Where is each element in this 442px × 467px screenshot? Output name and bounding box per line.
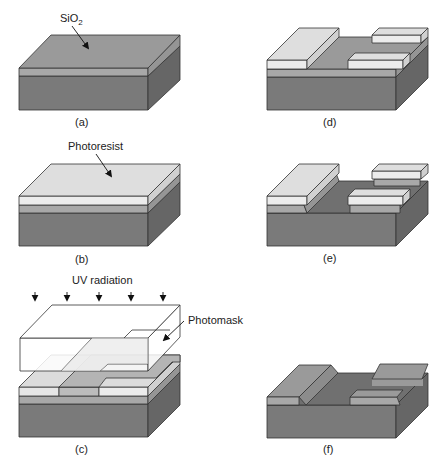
panel-e [267, 164, 428, 246]
photolithography-diagram: SiO2 (a) Photoresist (b) UV radiation [0, 0, 442, 467]
svg-text:SiO2: SiO2 [60, 12, 83, 27]
svg-text:Photoresist: Photoresist [68, 140, 123, 152]
panel-b [19, 164, 180, 246]
panel-f [267, 364, 428, 438]
uv-radiation-label: UV radiation [72, 274, 133, 286]
uv-arrows [35, 292, 163, 300]
caption-a: (a) [75, 116, 88, 128]
panel-d [267, 28, 428, 110]
caption-c: (c) [75, 443, 88, 455]
photomask [20, 305, 180, 371]
caption-f: (f) [323, 443, 333, 455]
panel-a [19, 35, 180, 110]
svg-text:Photomask: Photomask [188, 314, 244, 326]
caption-e: (e) [323, 252, 336, 264]
caption-b: (b) [75, 253, 88, 265]
caption-d: (d) [323, 116, 336, 128]
